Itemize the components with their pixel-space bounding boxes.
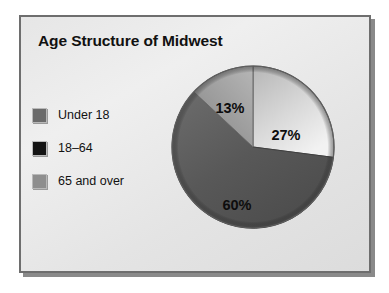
pie-value-label-18-64: 60% xyxy=(222,197,251,213)
legend-label-18-64: 18–64 xyxy=(58,141,93,155)
pie-value-label-65-and-over: 13% xyxy=(215,100,244,116)
pie-chart-svg: 27% 60% 13% xyxy=(170,64,336,230)
legend-label-under-18: Under 18 xyxy=(58,108,109,122)
legend-item-under-18[interactable]: Under 18 xyxy=(32,99,182,131)
legend-swatch-icon-18-64 xyxy=(32,141,47,156)
pie-chart: 27% 60% 13% xyxy=(170,64,336,230)
chart-legend: Under 18 18–64 65 and over xyxy=(32,99,182,198)
legend-label-65-and-over: 65 and over xyxy=(58,174,124,188)
legend-item-18-64[interactable]: 18–64 xyxy=(32,132,182,164)
pie-outline xyxy=(172,66,334,228)
chart-panel: Age Structure of Midwest Under 18 18–64 … xyxy=(19,15,371,273)
pie-value-label-under-18: 27% xyxy=(271,127,300,143)
legend-swatch-icon-under-18 xyxy=(32,108,47,123)
chart-screen: Age Structure of Midwest Under 18 18–64 … xyxy=(0,0,389,293)
legend-swatch-icon-65-and-over xyxy=(32,174,47,189)
page-title: Age Structure of Midwest xyxy=(38,32,222,50)
legend-item-65-and-over[interactable]: 65 and over xyxy=(32,165,182,197)
